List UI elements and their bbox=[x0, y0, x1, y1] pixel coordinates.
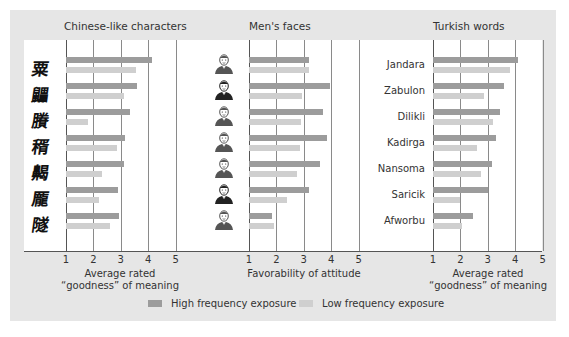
face-portrait-icon bbox=[213, 209, 235, 231]
face-portrait-icon bbox=[213, 183, 235, 205]
tick-label-1: 1 bbox=[63, 254, 69, 265]
bar-high bbox=[433, 109, 500, 115]
bar-low bbox=[433, 223, 462, 229]
word-label: Kadirga bbox=[355, 137, 425, 148]
character-glyph-icon: 龎 bbox=[30, 185, 51, 210]
bar-low bbox=[249, 145, 300, 151]
legend-label-high: High frequency exposure bbox=[171, 298, 296, 309]
tick-label-5: 5 bbox=[355, 254, 361, 265]
bar-high bbox=[66, 83, 137, 89]
face-portrait-icon bbox=[213, 131, 235, 153]
tick-label-4: 4 bbox=[512, 254, 518, 265]
bar-high bbox=[433, 57, 518, 63]
bar-low bbox=[66, 223, 110, 229]
tick-label-1: 1 bbox=[430, 254, 436, 265]
x-axis-label-faces: Favorability of attitude bbox=[247, 268, 360, 280]
bar-low bbox=[249, 197, 287, 203]
gridline-4 bbox=[331, 40, 332, 251]
bar-low bbox=[249, 119, 301, 125]
tick-label-3: 3 bbox=[118, 254, 124, 265]
bar-low bbox=[66, 93, 124, 99]
bar-low bbox=[249, 67, 309, 73]
legend-high: High frequency exposure bbox=[148, 298, 296, 309]
panel-title-faces: Men's faces bbox=[249, 20, 311, 32]
bar-high bbox=[249, 109, 323, 115]
x-axis-label-turkish: Average rated “goodness” of meaning bbox=[429, 268, 547, 292]
bar-high bbox=[66, 57, 152, 63]
character-glyph-icon: 稰 bbox=[30, 133, 51, 158]
face-portrait-icon bbox=[213, 157, 235, 179]
bar-low bbox=[249, 223, 274, 229]
bar-high bbox=[249, 57, 309, 63]
word-label: Zabulon bbox=[355, 85, 425, 96]
bar-high bbox=[66, 135, 125, 141]
word-label: Afworbu bbox=[355, 215, 425, 226]
gridline-5 bbox=[543, 40, 544, 251]
bar-low bbox=[249, 171, 297, 177]
tick-label-3: 3 bbox=[301, 254, 307, 265]
panel-title-turkish: Turkish words bbox=[433, 20, 505, 32]
character-glyph-icon: 賸 bbox=[30, 107, 51, 132]
word-label: Dilikli bbox=[355, 111, 425, 122]
bar-high bbox=[249, 161, 320, 167]
face-portrait-icon bbox=[213, 53, 235, 75]
x-axis-line bbox=[24, 251, 542, 252]
bar-high bbox=[66, 213, 119, 219]
tick-label-4: 4 bbox=[145, 254, 151, 265]
legend-label-low: Low frequency exposure bbox=[322, 298, 444, 309]
bar-high bbox=[66, 161, 124, 167]
tick-label-5: 5 bbox=[172, 254, 178, 265]
tick-label-2: 2 bbox=[457, 254, 463, 265]
tick-label-5: 5 bbox=[539, 254, 545, 265]
tick-label-3: 3 bbox=[485, 254, 491, 265]
character-glyph-icon: 齃 bbox=[30, 159, 51, 184]
gridline-5 bbox=[176, 40, 177, 251]
gridline-4 bbox=[148, 40, 149, 251]
bar-high bbox=[249, 187, 309, 193]
tick-label-2: 2 bbox=[273, 254, 279, 265]
bar-low bbox=[433, 67, 510, 73]
bar-low bbox=[66, 119, 88, 125]
tick-label-4: 4 bbox=[328, 254, 334, 265]
bar-high bbox=[249, 135, 327, 141]
bar-high bbox=[433, 83, 504, 89]
panel-title-characters: Chinese-like characters bbox=[64, 20, 187, 32]
bar-high bbox=[433, 135, 496, 141]
bar-high bbox=[249, 213, 272, 219]
legend-low: Low frequency exposure bbox=[299, 298, 444, 309]
word-label: Jandara bbox=[355, 59, 425, 70]
face-portrait-icon bbox=[213, 79, 235, 101]
bar-low bbox=[433, 171, 481, 177]
word-label: Nansoma bbox=[355, 163, 425, 174]
bar-low bbox=[66, 67, 136, 73]
bar-low bbox=[66, 197, 99, 203]
bar-low bbox=[66, 145, 117, 151]
character-glyph-icon: 鼺 bbox=[30, 81, 51, 106]
face-portrait-icon bbox=[213, 105, 235, 127]
bar-high bbox=[249, 83, 330, 89]
legend-swatch-high bbox=[148, 300, 162, 307]
legend-swatch-low bbox=[299, 300, 313, 307]
bar-high bbox=[66, 109, 130, 115]
bar-high bbox=[433, 213, 473, 219]
tick-label-2: 2 bbox=[90, 254, 96, 265]
bar-low bbox=[433, 145, 477, 151]
word-label: Saricik bbox=[355, 189, 425, 200]
bar-low bbox=[433, 119, 493, 125]
gridline-4 bbox=[515, 40, 516, 251]
character-glyph-icon: 粟 bbox=[30, 55, 51, 80]
bar-high bbox=[433, 161, 492, 167]
bar-high bbox=[433, 187, 488, 193]
bar-high bbox=[66, 187, 118, 193]
x-axis-label-characters: Average rated “goodness” of meaning bbox=[61, 268, 179, 292]
tick-label-1: 1 bbox=[246, 254, 252, 265]
bar-low bbox=[66, 171, 102, 177]
bar-low bbox=[249, 93, 302, 99]
bar-low bbox=[433, 93, 484, 99]
character-glyph-icon: 隧 bbox=[30, 211, 51, 236]
bar-low bbox=[433, 197, 460, 203]
